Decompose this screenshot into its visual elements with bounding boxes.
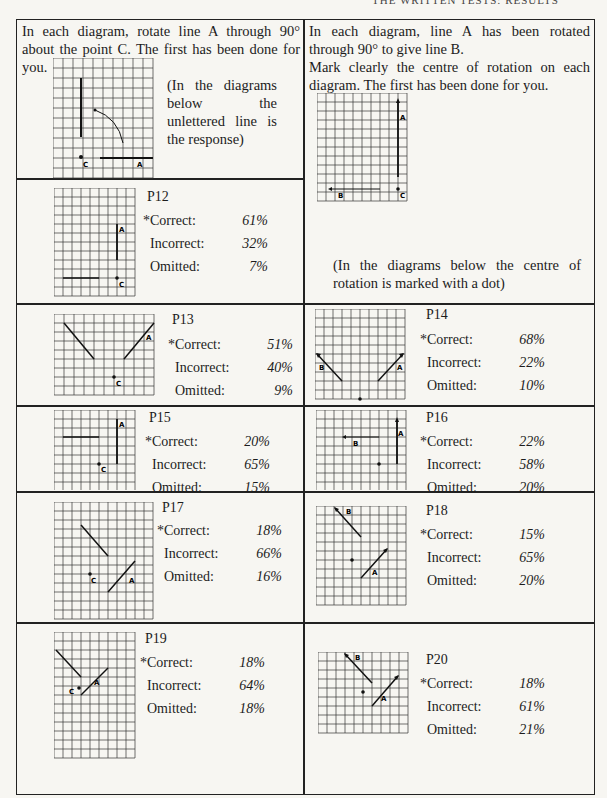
correct-label: *Correct: xyxy=(420,672,505,695)
correct-label: *Correct: xyxy=(420,328,505,351)
svg-text:A: A xyxy=(397,364,403,372)
p20-incorrect: 61% xyxy=(505,695,545,718)
correct-label: *Correct: xyxy=(168,333,253,356)
omitted-label: Omitted: xyxy=(157,565,242,588)
incorrect-label: Incorrect: xyxy=(420,546,505,569)
right-instruction-1: In each diagram, line A has been rotated… xyxy=(309,22,590,58)
svg-text:B: B xyxy=(353,440,358,448)
svg-text:C: C xyxy=(83,161,88,169)
p19-title: P19 xyxy=(145,631,167,647)
p19-incorrect: 64% xyxy=(225,674,265,697)
correct-label: *Correct: xyxy=(420,523,505,546)
incorrect-label: Incorrect: xyxy=(157,542,242,565)
omitted-label: Omitted: xyxy=(140,697,225,720)
svg-text:A: A xyxy=(119,421,125,429)
svg-text:A: A xyxy=(400,114,406,122)
p14-title: P14 xyxy=(426,307,448,323)
svg-text:B: B xyxy=(346,508,351,516)
p16-omitted: 20% xyxy=(505,476,545,499)
omitted-label: Omitted: xyxy=(145,476,230,499)
omitted-label: Omitted: xyxy=(168,379,253,402)
omitted-label: Omitted: xyxy=(420,476,505,499)
correct-label: *Correct: xyxy=(140,651,225,674)
p18-omitted: 20% xyxy=(505,569,545,592)
p12-diagram: A C xyxy=(54,188,138,300)
p18-diagram: B A xyxy=(316,506,410,610)
incorrect-label: Incorrect: xyxy=(420,351,505,374)
right-instruction-2: Mark clearly the centre of rotation on e… xyxy=(309,58,590,94)
svg-text:A: A xyxy=(146,334,152,342)
p15-correct: 20% xyxy=(230,430,270,453)
p16-stats: *Correct:22% Incorrect:58% Omitted:20% xyxy=(420,430,545,499)
right-note: (In the diagrams below the centre of rot… xyxy=(333,256,581,292)
p15-incorrect: 65% xyxy=(230,453,270,476)
p17-title: P17 xyxy=(162,500,184,516)
page-header: THE WRITTEN TESTS: RESULTS xyxy=(372,0,559,6)
example-rotation-diagram: C A xyxy=(53,58,157,182)
correct-label: *Correct: xyxy=(145,430,230,453)
p12-omitted: 7% xyxy=(228,255,268,278)
p16-incorrect: 58% xyxy=(505,453,545,476)
omitted-label: Omitted: xyxy=(420,374,505,397)
p13-title: P13 xyxy=(172,312,194,328)
p15-stats: *Correct:20% Incorrect:65% Omitted:15% xyxy=(145,430,270,499)
p16-title: P16 xyxy=(426,410,448,426)
p19-omitted: 18% xyxy=(225,697,265,720)
example-centre-diagram: A B C xyxy=(317,93,411,205)
svg-text:A: A xyxy=(94,679,100,687)
p18-correct: 15% xyxy=(505,523,545,546)
p20-correct: 18% xyxy=(505,672,545,695)
p14-correct: 68% xyxy=(505,328,545,351)
p13-diagram: A C xyxy=(54,314,158,399)
p15-diagram: A C xyxy=(54,410,138,492)
p17-correct: 18% xyxy=(242,519,282,542)
correct-label: *Correct: xyxy=(420,430,505,453)
column-divider xyxy=(303,19,305,795)
omitted-label: Omitted: xyxy=(143,255,228,278)
p13-omitted: 9% xyxy=(253,379,293,402)
p12-correct: 61% xyxy=(228,209,268,232)
row-divider xyxy=(16,622,595,624)
correct-label: *Correct: xyxy=(157,519,242,542)
p14-incorrect: 22% xyxy=(505,351,545,374)
svg-text:C: C xyxy=(91,577,96,585)
left-note: (In the diagrams below the unlettered li… xyxy=(167,76,277,148)
p19-correct: 18% xyxy=(225,651,265,674)
svg-text:A: A xyxy=(372,569,378,577)
p20-omitted: 21% xyxy=(505,718,545,741)
svg-text:A: A xyxy=(119,226,125,234)
incorrect-label: Incorrect: xyxy=(420,453,505,476)
p20-title: P20 xyxy=(426,652,448,668)
incorrect-label: Incorrect: xyxy=(420,695,505,718)
p15-omitted: 15% xyxy=(230,476,270,499)
p20-stats: *Correct:18% Incorrect:61% Omitted:21% xyxy=(420,672,545,741)
svg-text:C: C xyxy=(69,688,74,696)
incorrect-label: Incorrect: xyxy=(140,674,225,697)
p14-diagram: B A xyxy=(315,309,407,404)
p14-stats: *Correct:68% Incorrect:22% Omitted:10% xyxy=(420,328,545,397)
p19-stats: *Correct:18% Incorrect:64% Omitted:18% xyxy=(140,651,265,720)
p13-incorrect: 40% xyxy=(253,356,293,379)
p18-incorrect: 65% xyxy=(505,546,545,569)
svg-text:A: A xyxy=(137,161,143,169)
omitted-label: Omitted: xyxy=(420,569,505,592)
row-divider xyxy=(16,303,595,305)
p17-incorrect: 66% xyxy=(242,542,282,565)
svg-text:A: A xyxy=(129,577,135,585)
incorrect-label: Incorrect: xyxy=(168,356,253,379)
svg-text:C: C xyxy=(119,281,124,289)
p20-diagram: B A xyxy=(318,652,412,738)
p14-omitted: 10% xyxy=(505,374,545,397)
p13-correct: 51% xyxy=(253,333,293,356)
svg-text:B: B xyxy=(338,192,343,200)
row-divider xyxy=(16,405,595,407)
p16-correct: 22% xyxy=(505,430,545,453)
p17-diagram: C A xyxy=(54,502,156,620)
svg-text:A: A xyxy=(398,430,404,438)
p12-stats: *Correct:61% Incorrect:32% Omitted:7% xyxy=(143,209,268,278)
svg-text:A: A xyxy=(381,695,387,703)
p19-diagram: C A xyxy=(54,632,138,760)
svg-text:C: C xyxy=(101,466,106,474)
svg-text:C: C xyxy=(116,380,121,388)
p18-stats: *Correct:15% Incorrect:65% Omitted:20% xyxy=(420,523,545,592)
